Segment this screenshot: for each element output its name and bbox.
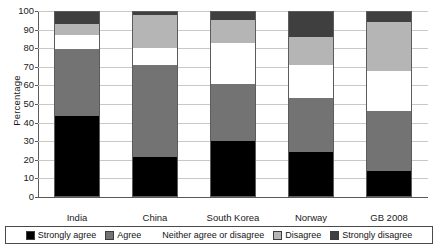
legend-label: Neither agree or disagree: [162, 231, 264, 240]
y-tick-label: 10: [23, 174, 34, 184]
y-tick-label: 50: [23, 99, 34, 109]
y-tick-label: 40: [23, 118, 34, 128]
bar-segment: [132, 157, 178, 197]
bar-segment: [210, 11, 256, 20]
bar-norway: [288, 11, 334, 197]
bar-segment: [366, 71, 412, 112]
bar-segment: [288, 152, 334, 197]
y-tick-mark: [35, 30, 38, 31]
legend-item: Disagree: [273, 231, 321, 240]
y-tick-label: 80: [23, 43, 34, 53]
y-tick-mark: [35, 123, 38, 124]
y-axis-title: Percentage: [11, 51, 22, 151]
bar-segment: [54, 49, 100, 116]
y-tick-label: 20: [23, 155, 34, 165]
y-tick-label: 70: [23, 62, 34, 72]
y-tick-mark: [35, 85, 38, 86]
bar-segment: [366, 171, 412, 197]
gridline: [38, 197, 428, 198]
bar-segment: [132, 48, 178, 65]
y-tick-mark: [35, 48, 38, 49]
bar-segment: [210, 141, 256, 197]
bar-segment: [210, 43, 256, 84]
x-tick-label: China: [143, 212, 168, 223]
y-tick-mark: [35, 67, 38, 68]
y-tick-mark: [35, 160, 38, 161]
bar-india: [54, 11, 100, 197]
y-tick-mark: [35, 197, 38, 198]
x-tick-label: Norway: [295, 212, 327, 223]
legend-swatch-icon: [26, 231, 35, 240]
bar-segment: [366, 22, 412, 70]
legend-item: Strongly disagree: [330, 231, 412, 240]
bar-segment: [54, 24, 100, 35]
x-tick-label: India: [67, 212, 88, 223]
bar-segment: [132, 65, 178, 157]
bar-segment: [288, 98, 334, 153]
bar-gb-2008: [366, 11, 412, 197]
x-tick-label: South Korea: [207, 212, 260, 223]
legend-swatch-icon: [105, 231, 114, 240]
bar-segment: [132, 11, 178, 15]
legend-label: Strongly agree: [38, 231, 97, 240]
legend-swatch-icon: [330, 231, 339, 240]
plot-area: 0102030405060708090100IndiaChinaSouth Ko…: [38, 11, 428, 197]
legend-item: Agree: [105, 231, 141, 240]
legend-item: Neither agree or disagree: [150, 231, 264, 240]
y-tick-label: 100: [18, 6, 34, 16]
bar-segment: [54, 116, 100, 197]
y-tick-mark: [35, 11, 38, 12]
x-tick-label: GB 2008: [370, 212, 408, 223]
legend-label: Agree: [117, 231, 141, 240]
bar-segment: [54, 35, 100, 49]
bar-segment: [288, 37, 334, 65]
bar-segment: [288, 65, 334, 98]
bar-segment: [366, 11, 412, 22]
y-tick-mark: [35, 141, 38, 142]
bar-segment: [288, 11, 334, 37]
bar-segment: [210, 84, 256, 142]
y-tick-mark: [35, 104, 38, 105]
legend-swatch-icon: [150, 231, 159, 240]
y-tick-label: 60: [23, 81, 34, 91]
bar-segment: [210, 20, 256, 42]
chart-legend: Strongly agreeAgreeNeither agree or disa…: [5, 226, 433, 244]
y-tick-label: 30: [23, 136, 34, 146]
bar-segment: [366, 111, 412, 171]
bar-segment: [54, 11, 100, 24]
legend-item: Strongly agree: [26, 231, 97, 240]
bar-segment: [132, 15, 178, 48]
y-tick-label: 90: [23, 25, 34, 35]
legend-label: Disagree: [285, 231, 321, 240]
stacked-bar-chart: Percentage 0102030405060708090100IndiaCh…: [0, 0, 438, 249]
legend-swatch-icon: [273, 231, 282, 240]
bar-china: [132, 11, 178, 197]
legend-label: Strongly disagree: [342, 231, 412, 240]
bar-south-korea: [210, 11, 256, 197]
y-tick-label: 0: [29, 192, 34, 202]
y-tick-mark: [35, 178, 38, 179]
